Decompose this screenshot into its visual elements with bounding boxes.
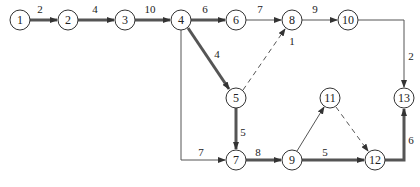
svg-text:8: 8 (289, 13, 295, 27)
svg-text:5: 5 (233, 91, 239, 105)
edge-label-9-12: 5 (322, 146, 328, 158)
edge-12-13 (385, 109, 404, 160)
network-diagram: 2 4 10 6 7 9 4 1 7 5 8 5 2 6 1 2 3 4 6 8… (0, 0, 420, 187)
edge-label-4-7: 7 (198, 146, 204, 158)
svg-text:3: 3 (122, 13, 128, 27)
edge-label-8-10: 9 (312, 3, 318, 15)
edge-label-10-13: 2 (408, 50, 414, 62)
node-4: 4 (171, 10, 191, 30)
svg-text:9: 9 (289, 153, 295, 167)
edge-label-1-2: 2 (37, 3, 43, 15)
node-9: 9 (282, 150, 302, 170)
edge-label-12-13: 6 (408, 134, 414, 146)
edges (30, 20, 404, 160)
svg-text:2: 2 (65, 13, 71, 27)
edge-label-4-6: 6 (202, 3, 208, 15)
svg-text:1: 1 (17, 13, 23, 27)
edge-label-7-9: 8 (255, 146, 261, 158)
edge-4-5 (188, 28, 229, 89)
edge-label-5-7: 5 (240, 126, 246, 138)
svg-text:7: 7 (233, 153, 239, 167)
node-2: 2 (58, 10, 78, 30)
node-8: 8 (282, 10, 302, 30)
node-7: 7 (226, 150, 246, 170)
edge-labels: 2 4 10 6 7 9 4 1 7 5 8 5 2 6 (37, 3, 414, 158)
edge-11-12 (336, 107, 368, 151)
edge-10-13 (358, 20, 404, 87)
edge-label-5-8: 1 (289, 35, 295, 47)
edge-label-6-8: 7 (257, 3, 263, 15)
node-13: 13 (394, 88, 414, 108)
edge-9-11 (297, 107, 324, 151)
edge-label-3-4: 10 (145, 3, 157, 15)
node-6: 6 (226, 10, 246, 30)
edge-label-4-5: 4 (214, 48, 220, 60)
svg-text:6: 6 (233, 13, 239, 27)
node-12: 12 (365, 150, 385, 170)
node-3: 3 (115, 10, 135, 30)
nodes: 1 2 3 4 6 8 10 5 7 9 11 12 13 (10, 10, 414, 170)
node-10: 10 (338, 10, 358, 30)
svg-text:11: 11 (324, 91, 336, 105)
svg-text:12: 12 (369, 153, 381, 167)
edge-label-2-3: 4 (92, 3, 98, 15)
svg-text:10: 10 (342, 13, 354, 27)
svg-text:13: 13 (398, 91, 410, 105)
edge-5-8 (243, 29, 285, 90)
svg-text:4: 4 (178, 13, 184, 27)
node-5: 5 (226, 88, 246, 108)
node-1: 1 (10, 10, 30, 30)
node-11: 11 (320, 88, 340, 108)
